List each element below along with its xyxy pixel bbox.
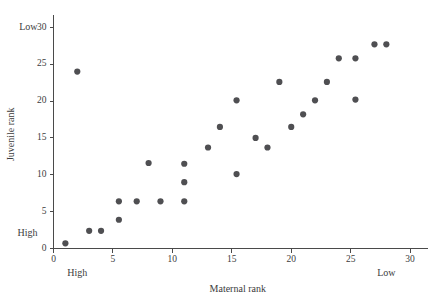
y-tick-label: 15 bbox=[37, 132, 47, 142]
data-points bbox=[62, 41, 389, 246]
data-point bbox=[74, 68, 80, 74]
x-axis-anchor-low: High bbox=[67, 267, 87, 278]
data-point bbox=[134, 198, 140, 204]
x-tick-label: 0 bbox=[51, 254, 56, 264]
data-point bbox=[252, 135, 258, 141]
y-tick-label: 20 bbox=[37, 95, 47, 105]
data-point bbox=[116, 217, 122, 223]
x-tick-label: 15 bbox=[227, 254, 237, 264]
axis-titles: Maternal rankJuvenile rankLowHighHighLow bbox=[5, 21, 396, 294]
data-point bbox=[324, 79, 330, 85]
y-axis-title: Juvenile rank bbox=[5, 107, 16, 161]
x-axis-anchor-high: Low bbox=[377, 267, 396, 278]
y-tick-label: 5 bbox=[42, 206, 47, 216]
data-point bbox=[300, 111, 306, 117]
data-point bbox=[352, 97, 358, 103]
data-point bbox=[205, 144, 211, 150]
data-point bbox=[233, 171, 239, 177]
y-tick-label: 10 bbox=[37, 169, 47, 179]
data-point bbox=[157, 198, 163, 204]
data-point bbox=[312, 97, 318, 103]
data-point bbox=[181, 179, 187, 185]
x-tick-label: 30 bbox=[405, 254, 415, 264]
y-axis-anchor-low: High bbox=[18, 227, 38, 238]
data-point bbox=[116, 198, 122, 204]
data-point bbox=[181, 198, 187, 204]
y-tick-label: 30 bbox=[37, 22, 47, 32]
chart-canvas: 051015202530051015202530 Maternal rankJu… bbox=[0, 0, 432, 303]
data-point bbox=[86, 228, 92, 234]
scatter-chart: 051015202530051015202530 Maternal rankJu… bbox=[0, 0, 432, 303]
data-point bbox=[217, 124, 223, 130]
data-point bbox=[383, 41, 389, 47]
y-axis-anchor-high: Low bbox=[19, 21, 38, 32]
data-point bbox=[288, 124, 294, 130]
data-point bbox=[352, 55, 358, 61]
data-point bbox=[276, 79, 282, 85]
x-tick-label: 20 bbox=[286, 254, 296, 264]
x-tick-label: 10 bbox=[168, 254, 178, 264]
data-point bbox=[62, 240, 68, 246]
data-point bbox=[371, 41, 377, 47]
x-tick-label: 5 bbox=[111, 254, 116, 264]
y-tick-label: 25 bbox=[37, 58, 47, 68]
data-point bbox=[336, 55, 342, 61]
axes bbox=[54, 15, 429, 249]
data-point bbox=[181, 161, 187, 167]
x-axis-title: Maternal rank bbox=[210, 283, 266, 294]
x-tick-label: 25 bbox=[346, 254, 356, 264]
data-point bbox=[264, 144, 270, 150]
data-point bbox=[98, 228, 104, 234]
data-point bbox=[233, 97, 239, 103]
y-tick-label: 0 bbox=[42, 243, 47, 253]
data-point bbox=[145, 160, 151, 166]
